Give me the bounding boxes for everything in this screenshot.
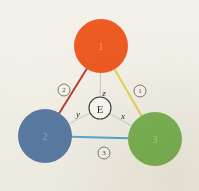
center-node-label: E xyxy=(97,103,104,115)
edge-1-3-badge[interactable]: 1 xyxy=(134,85,146,97)
edge-1-3-badge-label: 1 xyxy=(138,87,142,95)
node-3-label: 3 xyxy=(153,134,158,145)
spoke-z-label: z xyxy=(101,88,106,98)
center-node-e[interactable]: E xyxy=(89,97,111,119)
edge-2-3-badge-label: 3 xyxy=(102,149,106,157)
spoke-x-label: x xyxy=(120,111,125,121)
node-1[interactable]: 1 xyxy=(74,19,128,73)
network-diagram: 1 2 3 z y x E 1 xyxy=(0,0,199,191)
node-3[interactable]: 3 xyxy=(128,112,182,166)
edge-2-3-line xyxy=(71,137,129,139)
edge-2-3-badge[interactable]: 3 xyxy=(98,147,110,159)
node-2-label: 2 xyxy=(43,131,48,142)
node-2[interactable]: 2 xyxy=(18,109,72,163)
figure-container: 1 2 3 z y x E 1 xyxy=(0,0,199,191)
edge-1-2-badge-label: 2 xyxy=(62,86,66,94)
edge-1-2-badge[interactable]: 2 xyxy=(58,84,70,96)
spoke-y-label: y xyxy=(75,109,80,119)
node-1-label: 1 xyxy=(99,41,104,52)
